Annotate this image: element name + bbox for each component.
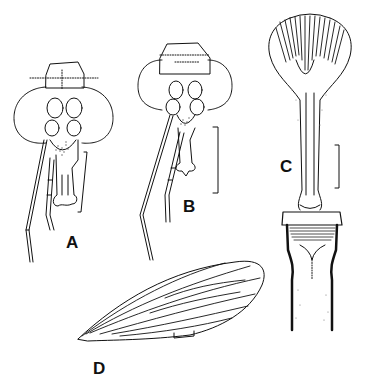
- panel-label-d: D: [93, 360, 105, 377]
- panel-b-head-drawing: [138, 43, 232, 260]
- morphology-plate: A B C D: [0, 0, 378, 392]
- plate-drawing: [0, 0, 378, 392]
- panel-d-wing-drawing: [78, 261, 264, 341]
- panel-label-c: C: [280, 158, 292, 175]
- panel-a-head-drawing: [14, 62, 113, 262]
- panel-label-b: B: [183, 198, 195, 215]
- panel-label-a: A: [66, 234, 78, 251]
